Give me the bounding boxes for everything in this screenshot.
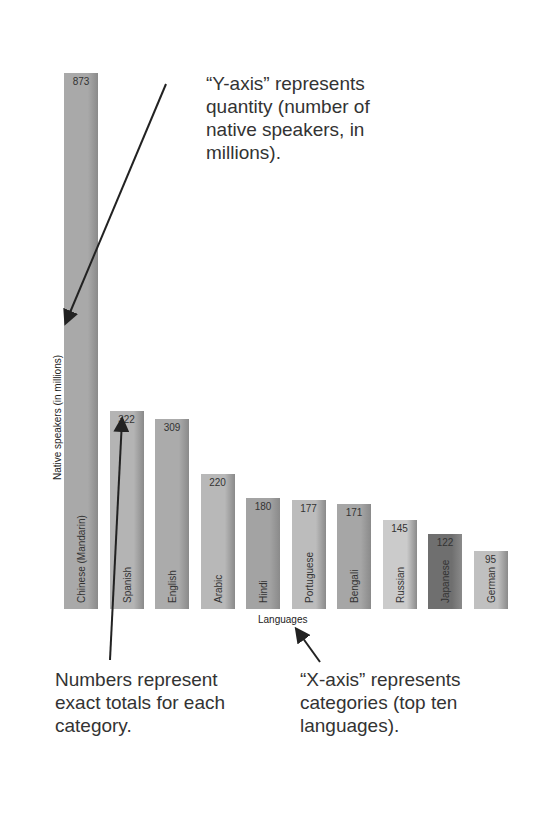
x-axis-arrow <box>297 630 320 662</box>
numbers-arrow <box>110 420 122 660</box>
y-axis-arrow <box>66 84 166 322</box>
annotation-arrows <box>0 0 545 814</box>
